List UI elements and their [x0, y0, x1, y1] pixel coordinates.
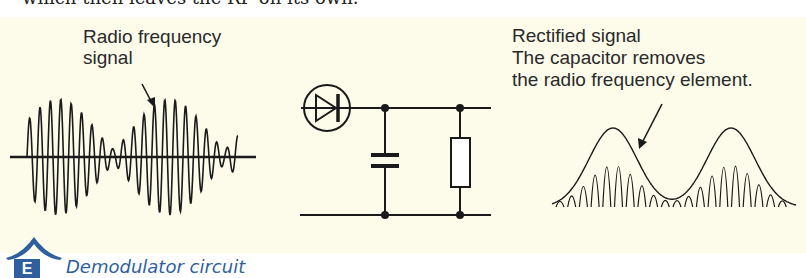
- rectified-label-line2: The capacitor removes: [512, 47, 705, 69]
- rectified-label-line3: the radio frequency element.: [512, 69, 753, 91]
- capacitor-icon: [371, 108, 399, 215]
- section-badge: E: [14, 259, 40, 278]
- resistor-icon: [451, 108, 470, 215]
- figure-caption: Demodulator circuit: [66, 256, 245, 277]
- rf-signal-label-line2: signal: [83, 47, 133, 69]
- rectified-label-arrow: [638, 104, 662, 149]
- rectified-spikes: [556, 166, 786, 207]
- rf-signal-label-line1: Radio frequency: [83, 26, 221, 48]
- roof-icon: [4, 234, 64, 260]
- demodulator-circuit: [300, 85, 491, 219]
- rf-label-arrow: [142, 84, 155, 108]
- rectified-envelope: [552, 128, 796, 205]
- rectified-label-line1: Rectified signal: [512, 25, 641, 47]
- diode-icon: [304, 85, 350, 131]
